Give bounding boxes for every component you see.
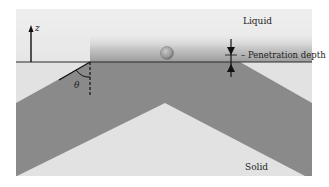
solid-label: Solid [245, 162, 268, 172]
penetration-depth-diagram: z θ – Penetration depth Liquid Solid [0, 0, 329, 187]
liquid-label: Liquid [243, 16, 272, 26]
penetration-depth-label: – Penetration depth [241, 50, 326, 60]
particle-sphere [161, 47, 174, 60]
angle-theta-label: θ [74, 80, 80, 90]
z-axis-label: z [34, 23, 40, 33]
